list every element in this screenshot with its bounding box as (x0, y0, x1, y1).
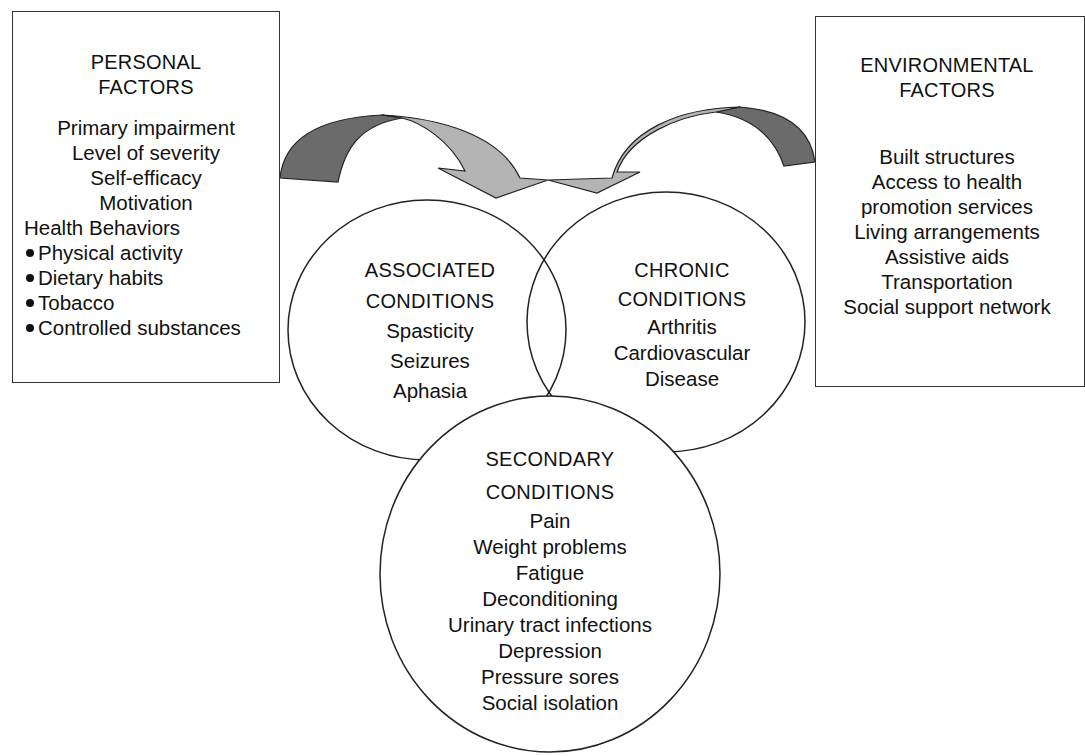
list-item: Motivation (13, 190, 279, 215)
list-item: Weight problems (420, 534, 680, 560)
list-item: promotion services (816, 194, 1078, 219)
title-line: CONDITIONS (420, 476, 680, 508)
list-item: Arthritis (582, 314, 782, 340)
bullet-item: Controlled substances (13, 315, 279, 340)
list-item: Primary impairment (13, 115, 279, 140)
bullet-icon (26, 324, 34, 332)
chronic-conditions-label: CHRONIC CONDITIONS Arthritis Cardiovascu… (582, 256, 782, 392)
list-item: Level of severity (13, 140, 279, 165)
title-line: SECONDARY (420, 442, 680, 476)
list-item: Aphasia (330, 376, 530, 406)
title-line: ENVIRONMENTAL (816, 53, 1078, 78)
right-curved-arrow-icon (548, 107, 815, 193)
list-item: Built structures (816, 144, 1078, 169)
list-item: Social support network (816, 294, 1078, 319)
bullet-item: Tobacco (13, 290, 279, 315)
bullet-text: Controlled substances (38, 316, 241, 339)
list-item: Seizures (330, 346, 530, 376)
list-item: Cardiovascular (582, 340, 782, 366)
list-item: Spasticity (330, 316, 530, 346)
title-line: FACTORS (13, 75, 279, 100)
title-line: ASSOCIATED (330, 254, 530, 286)
bullet-text: Dietary habits (38, 266, 163, 289)
list-item: Fatigue (420, 560, 680, 586)
bullet-text: Tobacco (38, 291, 114, 314)
list-item: Urinary tract infections (420, 612, 680, 638)
health-behaviors-label: Health Behaviors (13, 215, 279, 240)
environmental-factors-list: Built structures Access to health promot… (816, 144, 1084, 319)
list-item: Disease (582, 366, 782, 392)
title-line: CONDITIONS (330, 286, 530, 316)
associated-conditions-label: ASSOCIATED CONDITIONS Spasticity Seizure… (330, 254, 530, 406)
list-item: Self-efficacy (13, 165, 279, 190)
list-item: Deconditioning (420, 586, 680, 612)
title-line: CONDITIONS (582, 285, 782, 314)
list-item: Living arrangements (816, 219, 1078, 244)
list-item: Depression (420, 638, 680, 664)
environmental-factors-box: ENVIRONMENTAL FACTORS Built structures A… (815, 16, 1085, 387)
personal-factors-title: PERSONAL FACTORS (13, 50, 279, 100)
bullet-text: Physical activity (38, 241, 183, 264)
title-line: PERSONAL (13, 50, 279, 75)
list-item: Access to health (816, 169, 1078, 194)
list-item: Pain (420, 508, 680, 534)
environmental-factors-title: ENVIRONMENTAL FACTORS (816, 53, 1084, 103)
bullet-icon (26, 274, 34, 282)
list-item: Pressure sores (420, 664, 680, 690)
title-line: CHRONIC (582, 256, 782, 285)
bullet-item: Physical activity (13, 240, 279, 265)
bullet-item: Dietary habits (13, 265, 279, 290)
personal-factors-list: Primary impairment Level of severity Sel… (13, 115, 279, 340)
list-item: Assistive aids (816, 244, 1078, 269)
bullet-icon (26, 299, 34, 307)
list-item: Social isolation (420, 690, 680, 716)
left-curved-arrow-icon (280, 115, 548, 198)
secondary-conditions-label: SECONDARY CONDITIONS Pain Weight problem… (420, 442, 680, 716)
list-item: Transportation (816, 269, 1078, 294)
title-line: FACTORS (816, 78, 1078, 103)
bullet-icon (26, 249, 34, 257)
personal-factors-box: PERSONAL FACTORS Primary impairment Leve… (12, 11, 280, 383)
